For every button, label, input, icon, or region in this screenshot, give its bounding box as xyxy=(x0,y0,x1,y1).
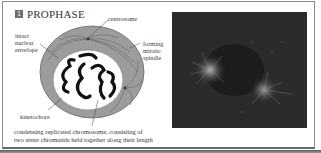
label-centrosome: centrosome xyxy=(108,15,137,22)
centrosome-2 xyxy=(124,87,127,90)
centrosome-1 xyxy=(87,38,90,41)
label-nuclear-envelope: intact nuclear envelope xyxy=(15,32,38,53)
label-mitotic-spindle: forming mitotic spindle xyxy=(143,40,163,61)
label-kinetochore: kinetochore xyxy=(20,113,50,120)
micrograph-image xyxy=(172,12,307,128)
prophase-micrograph xyxy=(172,12,307,128)
figure-caption: condensing replicated chromosome, consis… xyxy=(14,128,153,144)
